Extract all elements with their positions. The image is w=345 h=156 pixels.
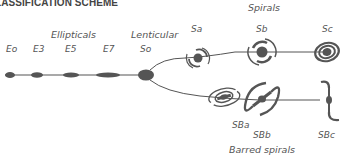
galaxy-e7-icon [96,73,120,78]
spiral-branch-line [150,52,330,70]
galaxy-e0-icon [5,72,15,78]
galaxy-e5-icon [63,72,79,77]
galaxy-e3-icon [31,72,43,78]
galaxy-s0-icon [138,70,154,81]
galaxy-sbc-icon [321,82,339,121]
galaxy-sbb-icon [245,83,279,115]
hubble-tuning-fork-diagram [0,0,345,156]
